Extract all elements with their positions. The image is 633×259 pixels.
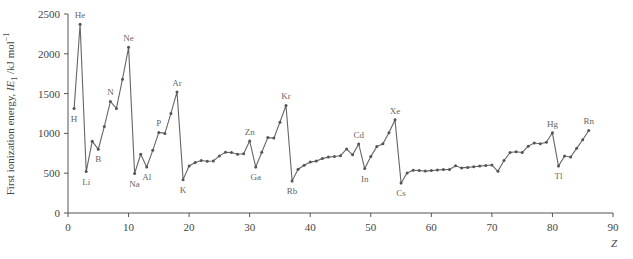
data-point <box>315 160 318 163</box>
data-point <box>151 149 154 152</box>
data-point <box>490 164 493 167</box>
data-point <box>200 159 203 162</box>
x-tick-label: 80 <box>547 221 559 233</box>
element-label: In <box>361 174 369 184</box>
data-point <box>297 168 300 171</box>
data-point <box>478 165 481 168</box>
element-label: Li <box>82 177 90 187</box>
data-point <box>424 170 427 173</box>
data-point <box>163 132 166 135</box>
y-tick-label: 1500 <box>38 88 61 100</box>
data-point <box>91 140 94 143</box>
data-point <box>412 169 415 172</box>
y-axis-label: First ionization energy, IE1 /kJ mol−1 <box>2 33 19 196</box>
data-point <box>339 154 342 157</box>
element-label: Tl <box>555 171 563 181</box>
x-tick-label: 50 <box>365 221 377 233</box>
x-tick-label: 30 <box>244 221 256 233</box>
data-point <box>97 148 100 151</box>
data-point <box>145 165 148 168</box>
data-point <box>466 166 469 169</box>
data-point <box>260 151 263 154</box>
data-point <box>182 178 185 181</box>
data-point <box>115 107 118 110</box>
element-label: Ga <box>250 172 261 182</box>
data-point <box>73 107 76 110</box>
data-point <box>194 161 197 164</box>
data-point <box>569 156 572 159</box>
x-axis-label: Z <box>611 237 618 249</box>
element-label: Na <box>129 179 140 189</box>
data-point <box>363 167 366 170</box>
data-point <box>581 138 584 141</box>
data-point <box>285 104 288 107</box>
x-tick-label: 70 <box>486 221 498 233</box>
data-point <box>224 151 227 154</box>
x-tick-label: 0 <box>65 221 71 233</box>
data-point <box>327 156 330 159</box>
y-tick-label: 2500 <box>38 8 61 20</box>
y-tick-label: 0 <box>55 207 61 219</box>
element-label: Cs <box>396 188 406 198</box>
y-tick-label: 500 <box>44 167 61 179</box>
data-point <box>587 129 590 132</box>
data-point <box>442 168 445 171</box>
element-label: H <box>71 114 78 124</box>
data-point <box>85 170 88 173</box>
data-point <box>254 165 257 168</box>
data-point <box>509 151 512 154</box>
element-label: B <box>95 154 101 164</box>
element-annotations: HHeLiBNNeNaAlPArKZnGaKrRbCdInXeCsHgTlRn <box>71 10 595 198</box>
data-point <box>400 182 403 185</box>
data-point <box>321 157 324 160</box>
data-point <box>557 165 560 168</box>
data-point <box>291 179 294 182</box>
data-point <box>357 142 360 145</box>
data-point <box>551 131 554 134</box>
data-point <box>109 100 112 103</box>
data-point <box>79 23 82 26</box>
data-point <box>369 155 372 158</box>
element-label: K <box>180 185 187 195</box>
x-tick-label: 20 <box>184 221 196 233</box>
data-point <box>278 121 281 124</box>
element-label: Ar <box>172 78 182 88</box>
data-point <box>539 142 542 145</box>
series-line <box>74 24 589 183</box>
data-point <box>545 141 548 144</box>
data-point <box>375 145 378 148</box>
data-point <box>176 90 179 93</box>
data-point <box>139 153 142 156</box>
data-point <box>230 151 233 154</box>
data-point <box>333 155 336 158</box>
data-point <box>157 131 160 134</box>
data-point <box>406 171 409 174</box>
element-label: Rn <box>584 116 595 126</box>
data-point <box>454 164 457 167</box>
data-point <box>460 166 463 169</box>
data-point <box>351 153 354 156</box>
data-point <box>484 164 487 167</box>
data-point <box>121 78 124 81</box>
element-label: Kr <box>281 91 291 101</box>
element-label: Xe <box>390 106 401 116</box>
data-point <box>188 165 191 168</box>
data-point <box>381 142 384 145</box>
data-point <box>248 139 251 142</box>
data-point <box>303 164 306 167</box>
x-tick-label: 40 <box>305 221 317 233</box>
data-point <box>448 168 451 171</box>
data-point <box>394 118 397 121</box>
data-point <box>496 170 499 173</box>
data-point <box>575 147 578 150</box>
data-series <box>73 23 591 185</box>
element-label: He <box>75 10 86 20</box>
data-point <box>521 151 524 154</box>
element-label: Cd <box>353 130 364 140</box>
element-label: Hg <box>547 119 558 129</box>
y-tick-label: 2000 <box>38 48 61 60</box>
data-point <box>127 46 130 49</box>
data-point <box>103 125 106 128</box>
data-point <box>272 137 275 140</box>
element-label: P <box>156 118 161 128</box>
